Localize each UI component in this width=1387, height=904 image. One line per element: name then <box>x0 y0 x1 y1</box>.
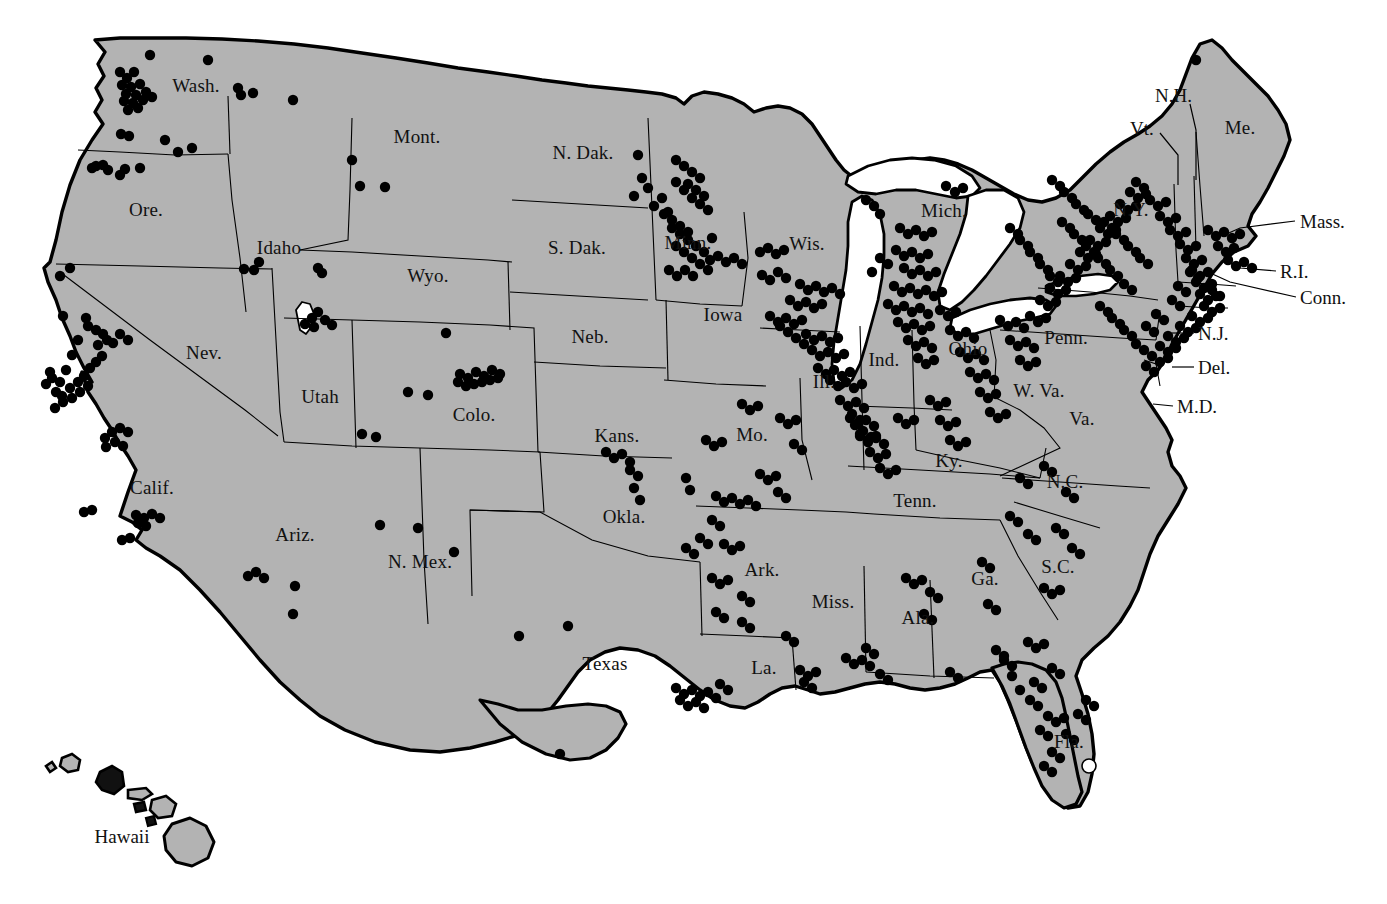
distribution-dot <box>155 513 165 523</box>
hawaii-island-maui <box>150 796 176 818</box>
distribution-dot <box>737 259 747 269</box>
distribution-dot <box>683 227 693 237</box>
distribution-dot <box>288 609 298 619</box>
distribution-dot <box>937 287 947 297</box>
distribution-dot <box>300 319 310 329</box>
distribution-dot <box>807 683 817 693</box>
distribution-dot <box>703 205 713 215</box>
distribution-dot <box>923 249 933 259</box>
distribution-dot <box>1013 229 1023 239</box>
distribution-dot <box>839 349 849 359</box>
distribution-dot <box>953 673 963 683</box>
distribution-dot <box>1161 197 1171 207</box>
distribution-dot <box>1139 183 1149 193</box>
distribution-dot <box>236 90 246 100</box>
distribution-dot <box>1031 535 1041 545</box>
distribution-dot <box>941 181 951 191</box>
inset-label-hawaii: Hawaii <box>95 826 150 848</box>
distribution-dot <box>83 381 93 391</box>
distribution-dot <box>1159 315 1169 325</box>
distribution-dot <box>857 379 867 389</box>
distribution-dot <box>1007 661 1017 671</box>
distribution-dot <box>145 50 155 60</box>
distribution-dot <box>133 103 143 113</box>
distribution-dot <box>909 415 919 425</box>
distribution-dot <box>493 373 503 383</box>
distribution-dot <box>141 521 151 531</box>
distribution-dot <box>927 343 937 353</box>
distribution-dot <box>717 437 727 447</box>
distribution-dot <box>1079 205 1089 215</box>
distribution-dot <box>1047 767 1057 777</box>
distribution-dot <box>765 275 775 285</box>
distribution-dot <box>187 143 197 153</box>
distribution-dot <box>123 105 133 115</box>
distribution-dot <box>357 429 367 439</box>
distribution-dot <box>1015 685 1025 695</box>
distribution-dot <box>1007 671 1017 681</box>
distribution-dot <box>1059 713 1069 723</box>
distribution-dot <box>723 685 733 695</box>
distribution-dot <box>689 549 699 559</box>
distribution-dot <box>1031 357 1041 367</box>
distribution-dot <box>423 390 433 400</box>
distribution-dot <box>723 575 733 585</box>
distribution-dot <box>1229 243 1239 253</box>
distribution-dot <box>347 155 357 165</box>
distribution-dot <box>695 173 705 183</box>
distribution-dot <box>875 209 885 219</box>
distribution-dot <box>403 387 413 397</box>
distribution-dot <box>629 191 639 201</box>
distribution-dot <box>961 437 971 447</box>
distribution-dot <box>779 245 789 255</box>
distribution-dot <box>1149 327 1159 337</box>
distribution-dot <box>707 233 717 243</box>
hawaii-island-kahoolawe <box>146 816 156 826</box>
distribution-dot <box>67 350 77 360</box>
distribution-dot <box>1043 731 1053 741</box>
distribution-dot <box>991 389 1001 399</box>
hawaii-island-molokai <box>128 788 152 800</box>
land-layer <box>44 38 1290 808</box>
distribution-dot <box>703 539 713 549</box>
distribution-dot <box>925 321 935 331</box>
distribution-dot <box>931 267 941 277</box>
distribution-dot <box>1019 323 1029 333</box>
distribution-dot <box>119 96 129 106</box>
distribution-dot <box>1139 345 1149 355</box>
hawaii-inset <box>46 754 214 866</box>
distribution-dot <box>288 95 298 105</box>
distribution-dot <box>927 615 937 625</box>
distribution-dot <box>355 181 365 191</box>
distribution-dot <box>881 449 891 459</box>
distribution-dot <box>883 675 893 685</box>
distribution-dot <box>248 88 258 98</box>
distribution-dot <box>123 335 133 345</box>
distribution-dot <box>1069 493 1079 503</box>
distribution-dot <box>1055 753 1065 763</box>
distribution-dot <box>1171 213 1181 223</box>
distribution-dot <box>563 621 573 631</box>
distribution-dot <box>1065 223 1075 233</box>
distribution-dot <box>259 573 269 583</box>
distribution-dot <box>1193 273 1203 283</box>
callout-label-mass: Mass. <box>1300 212 1345 231</box>
distribution-dot <box>313 307 323 317</box>
distribution-dot <box>699 703 709 713</box>
distribution-dot <box>1197 255 1207 265</box>
callout-label-m-d: M.D. <box>1177 397 1217 416</box>
distribution-dot <box>1179 333 1189 343</box>
distribution-dot <box>1181 287 1191 297</box>
distribution-dot <box>65 263 75 273</box>
distribution-dot <box>87 505 97 515</box>
distribution-dot <box>1047 467 1057 477</box>
distribution-dot <box>117 80 127 90</box>
distribution-dot <box>1081 715 1091 725</box>
distribution-dot <box>643 183 653 193</box>
distribution-dot <box>371 432 381 442</box>
distribution-dot <box>514 631 524 641</box>
distribution-dot <box>985 563 995 573</box>
distribution-dot <box>1059 529 1069 539</box>
distribution-dot <box>751 501 761 511</box>
distribution-dot <box>1181 227 1191 237</box>
